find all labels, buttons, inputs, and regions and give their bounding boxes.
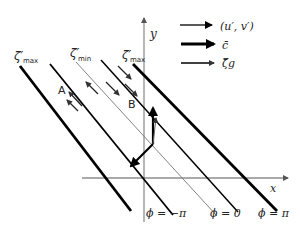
point-b-label: B xyxy=(128,98,136,111)
svg-text:max: max xyxy=(130,56,145,64)
contour-zeta-min xyxy=(76,62,217,216)
contour-label-zeta-max-left: ζ′ max xyxy=(13,49,38,65)
legend-label-uv: (u′, v′) xyxy=(220,20,254,33)
svg-text:max: max xyxy=(23,57,38,65)
contour-phi-zero xyxy=(101,60,238,212)
phase-label-zero: ϕ = 0 xyxy=(210,207,241,220)
velocity-arrows-a xyxy=(67,82,98,111)
phase-label-pi: ϕ = π xyxy=(258,207,290,220)
legend-label-c: c̄ xyxy=(222,39,229,52)
point-a-label: A xyxy=(58,84,66,97)
x-axis-label: x xyxy=(270,182,277,195)
phase-label-minus-pi: ϕ = −π xyxy=(146,207,187,220)
diagram-canvas: y x (u′, v′) c̄ ζ̄g ζ′ max ζ′ min ζ′ max… xyxy=(0,0,300,234)
contour-zeta-max-right xyxy=(133,64,277,211)
legend-label-zeta-g: ζ̄g xyxy=(222,57,235,70)
legend xyxy=(180,25,214,63)
contour-zeta-max-left xyxy=(20,66,131,211)
svg-text:ζ′: ζ′ xyxy=(13,49,24,63)
y-axis-label: y xyxy=(149,27,157,41)
contour-label-zeta-min: ζ′ min xyxy=(69,46,91,63)
contour-label-zeta-max-right: ζ′ max xyxy=(121,48,145,64)
svg-text:min: min xyxy=(78,55,91,63)
